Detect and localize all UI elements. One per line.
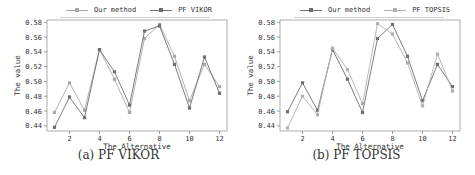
series-our-method [286,23,454,114]
data-point-marker [203,55,206,58]
data-point-marker [53,126,56,129]
data-point-marker [301,95,304,98]
data-point-marker [158,24,161,27]
y-tick-label: 0.52 [25,63,42,71]
data-point-marker [68,81,71,84]
data-point-marker [361,111,364,114]
x-tick-label: 10 [185,135,193,143]
data-point-marker [173,63,176,66]
data-point-marker [391,23,394,26]
data-point-marker [406,55,409,58]
line-chart: 0.440.460.480.500.520.540.560.5824681012… [0,0,237,150]
data-point-marker [376,37,379,40]
data-point-marker [173,55,176,58]
data-point-marker [286,110,289,113]
x-tick-label: 12 [215,135,223,143]
figure-caption: (b) PF TOPSIS [238,148,475,162]
y-tick-label: 0.48 [25,93,42,101]
data-point-marker [218,92,221,95]
y-axis-label: The value [246,55,255,96]
y-tick-label: 0.58 [25,19,42,27]
x-tick-label: 4 [330,135,334,143]
data-point-marker [451,89,454,92]
y-tick-label: 0.48 [258,93,275,101]
data-point-marker [436,63,439,66]
data-point-marker [128,111,131,114]
figure-caption: (a) PF VIKOR [0,148,237,162]
y-tick-label: 0.46 [25,108,42,116]
chart-panel-pf-vikor: Our method PF VIKOR 0.440.460.480.500.52… [0,0,237,175]
chart-panel-pf-topsis: Our method PF TOPSIS 0.440.460.480.500.5… [238,0,475,175]
data-point-marker [406,61,409,64]
data-point-marker [391,32,394,35]
data-point-marker [68,95,71,98]
data-point-marker [188,106,191,109]
data-point-marker [286,126,289,129]
data-point-marker [376,22,379,25]
data-point-marker [346,78,349,81]
data-point-marker [301,81,304,84]
x-tick-label: 10 [418,135,426,143]
y-tick-label: 0.46 [258,108,275,116]
data-point-marker [346,68,349,71]
data-point-marker [83,116,86,119]
x-tick-label: 2 [67,135,71,143]
line-chart: 0.440.460.480.500.520.540.560.5824681012… [238,0,475,150]
data-point-marker [113,78,116,81]
y-tick-label: 0.54 [25,48,42,56]
y-tick-label: 0.58 [258,19,275,27]
y-tick-label: 0.56 [258,34,275,42]
y-tick-label: 0.44 [25,122,42,130]
data-point-marker [316,113,319,116]
y-tick-label: 0.50 [25,78,42,86]
y-tick-label: 0.54 [258,48,275,56]
x-tick-label: 12 [448,135,456,143]
data-point-marker [203,63,206,66]
data-point-marker [331,47,334,50]
y-axis-label: The value [13,55,22,96]
y-tick-label: 0.52 [258,63,275,71]
data-point-marker [128,104,131,107]
data-point-marker [188,99,191,102]
data-point-marker [421,104,424,107]
y-tick-label: 0.56 [25,34,42,42]
data-point-marker [361,102,364,105]
data-point-marker [98,48,101,51]
data-point-marker [436,52,439,55]
y-tick-label: 0.44 [258,122,275,130]
y-tick-label: 0.50 [258,78,275,86]
x-tick-label: 4 [97,135,101,143]
data-point-marker [53,111,56,114]
data-point-marker [113,70,116,73]
data-point-marker [218,85,221,88]
x-tick-label: 2 [300,135,304,143]
data-point-marker [143,30,146,33]
